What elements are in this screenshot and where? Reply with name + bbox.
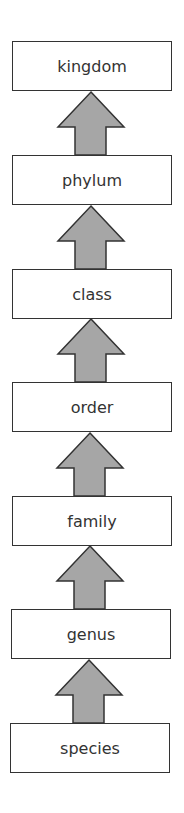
level-label: family bbox=[67, 512, 116, 531]
level-box-order: order bbox=[12, 382, 172, 432]
level-box-kingdom: kingdom bbox=[12, 41, 172, 91]
arrow-up-icon bbox=[58, 92, 124, 155]
level-box-family: family bbox=[12, 496, 172, 546]
arrow-up-icon bbox=[58, 319, 124, 382]
arrow-up-icon bbox=[56, 660, 122, 723]
level-label: genus bbox=[67, 625, 116, 644]
level-box-class: class bbox=[12, 269, 172, 319]
arrow-up-icon bbox=[57, 546, 123, 609]
level-label: kingdom bbox=[57, 57, 127, 76]
arrow-up-icon bbox=[58, 206, 124, 269]
level-label: order bbox=[71, 398, 114, 417]
level-box-phylum: phylum bbox=[12, 155, 172, 205]
arrow-up-icon bbox=[57, 433, 123, 496]
level-box-genus: genus bbox=[11, 609, 171, 659]
level-box-species: species bbox=[10, 723, 170, 773]
level-label: species bbox=[60, 739, 120, 758]
level-label: class bbox=[72, 285, 112, 304]
level-label: phylum bbox=[62, 171, 122, 190]
